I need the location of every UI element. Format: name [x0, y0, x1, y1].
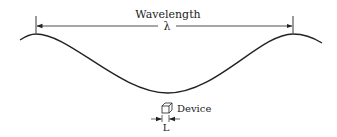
- device-label: Device: [177, 103, 211, 114]
- wavelength-diagram: Wavelength λ Device L: [0, 0, 337, 137]
- wavelength-symbol: λ: [164, 20, 171, 33]
- cube-icon: [162, 103, 172, 113]
- device-length-symbol: L: [163, 122, 170, 133]
- wave-curve: [20, 34, 322, 93]
- diagram-svg: Wavelength λ Device L: [0, 0, 337, 137]
